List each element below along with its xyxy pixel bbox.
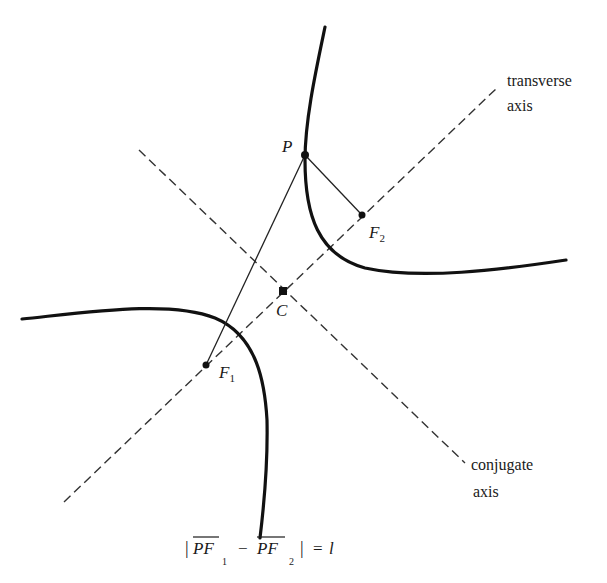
point-F1: [203, 362, 210, 369]
label-P: P: [281, 137, 292, 156]
svg-text:−: −: [238, 539, 248, 558]
svg-text:|: |: [300, 538, 304, 558]
label-conjugate-axis: conjugate: [471, 456, 533, 474]
point-F2: [359, 212, 366, 219]
formula: | PF 1 − PF 2 | = l: [185, 537, 334, 567]
conjugate-axis-line: [139, 150, 465, 463]
label-F1: F1: [218, 363, 235, 384]
label-transverse-axis: transverse: [507, 72, 572, 89]
label-conjugate-axis-2: axis: [473, 483, 499, 500]
svg-text:|: |: [185, 538, 189, 558]
svg-text:=: =: [313, 539, 323, 558]
hyperbola-branch-upper-right: [305, 27, 566, 273]
label-transverse-axis-2: axis: [507, 97, 533, 114]
svg-text:PF: PF: [256, 539, 278, 558]
point-C: [279, 287, 287, 295]
hyperbola-diagram: P F2 C F1 transverse axis conjugate axis…: [0, 0, 607, 583]
segment-PF1: [206, 155, 305, 365]
svg-text:PF: PF: [192, 539, 214, 558]
svg-text:2: 2: [289, 556, 294, 567]
svg-text:1: 1: [222, 556, 227, 567]
label-C: C: [276, 301, 288, 320]
point-P: [301, 151, 309, 159]
label-F2: F2: [368, 223, 385, 244]
svg-text:l: l: [329, 539, 334, 558]
segment-PF2: [305, 155, 362, 215]
